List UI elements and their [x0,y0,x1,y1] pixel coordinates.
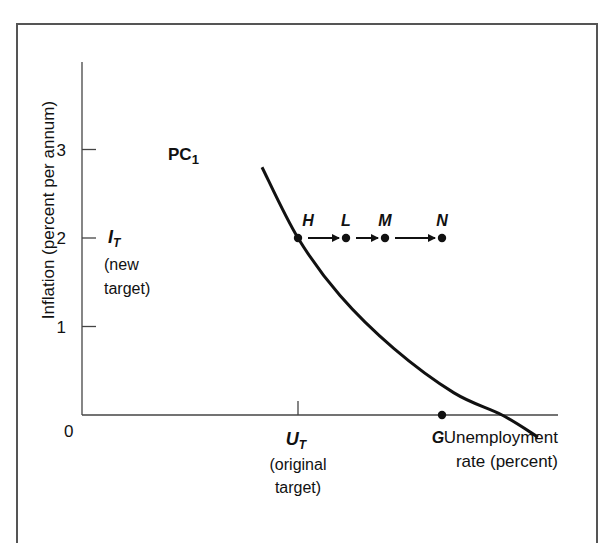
inflation-target-desc-1: (new [104,256,139,273]
point-N [438,234,446,242]
pc1-label: PC1 [168,145,199,167]
y-tick-label-1: 1 [57,318,66,337]
y-axis-label: Inflation (percent per annum) [39,101,58,319]
x-axis-label-line2: rate (percent) [456,452,558,471]
pc1-curve [262,167,538,437]
inflation-target-label: IT [108,227,122,250]
point-label-G: G [432,429,444,446]
unemployment-target-desc-2: target) [275,479,321,496]
point-L [342,234,350,242]
point-label-H: H [302,212,314,229]
point-label-L: L [341,212,351,229]
point-label-N: N [436,212,448,229]
unemployment-target-desc-1: (original [270,456,327,473]
point-M [381,234,389,242]
x-axis-label-line1: Unemployment [444,428,559,447]
point-H [294,234,302,242]
point-label-M: M [378,212,392,229]
point-G [438,411,446,419]
unemployment-target-label: UT [286,429,308,452]
origin-label: 0 [64,422,73,441]
inflation-target-desc-2: target) [104,280,150,297]
